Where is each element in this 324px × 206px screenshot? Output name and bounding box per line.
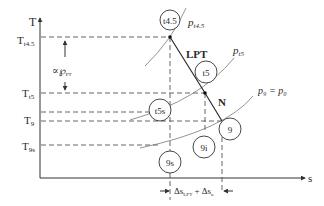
x-axis-label: s	[308, 172, 312, 184]
point-t45	[168, 35, 172, 39]
label-tt45: Tt4.5	[17, 34, 35, 48]
label-t9: T9	[24, 114, 35, 128]
svg-text:9i: 9i	[200, 143, 208, 153]
nozzle-label: N	[218, 96, 226, 108]
proportional-work-label: ∝℘PT	[52, 65, 72, 77]
state-9: 9	[219, 118, 241, 140]
point-t5	[203, 91, 207, 95]
isobar-label-p9: p₉ = p₀	[257, 85, 287, 96]
label-t9s: T9s	[22, 140, 35, 154]
svg-text:t5: t5	[202, 68, 210, 78]
state-t5: t5	[195, 61, 217, 83]
y-axis-label: T	[29, 15, 37, 29]
t-s-diagram: T s Tt4.5 Tt5 T9 T9s ∝℘PT pt4.5 pt5 p₉ =…	[0, 0, 324, 206]
lpt-label: LPT	[186, 48, 208, 60]
state-9s: 9s	[159, 151, 181, 173]
state-t45: t4.5	[160, 10, 180, 30]
svg-text:t5s: t5s	[155, 106, 166, 116]
isobar-pt5	[130, 58, 234, 120]
svg-text:9s: 9s	[166, 158, 175, 168]
isobar-label-pt5: pt5	[232, 44, 244, 58]
delta-s-label: ΔsLPT + Δsn	[174, 186, 214, 197]
state-t5s: t5s	[149, 99, 171, 121]
label-tt5: Tt5	[22, 87, 35, 101]
svg-text:t4.5: t4.5	[163, 16, 177, 26]
svg-text:9: 9	[228, 125, 233, 135]
state-9i: 9i	[193, 136, 215, 158]
isobar-label-pt45: pt4.5	[187, 16, 205, 30]
